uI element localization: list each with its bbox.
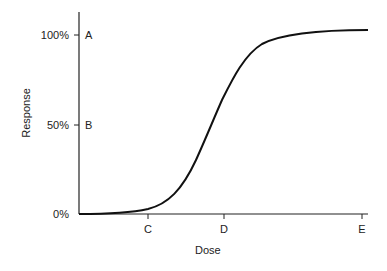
dose-response-chart: 100% A 50% B 0% C D E Dose Response (0, 0, 387, 271)
y-tick-letter: B (85, 119, 92, 131)
x-tick-c: C (144, 214, 152, 235)
x-tick-label: C (144, 223, 152, 235)
x-tick-e: E (358, 214, 365, 235)
y-tick-label: 100% (41, 29, 69, 41)
y-tick-0: 0% (53, 208, 69, 220)
y-tick-letter: A (85, 29, 93, 41)
x-tick-label: E (358, 223, 365, 235)
y-tick-label: 0% (53, 208, 69, 220)
y-tick-50: 50% B (47, 119, 92, 131)
x-tick-label: D (220, 223, 228, 235)
dose-response-curve (79, 30, 368, 214)
x-tick-d: D (220, 214, 228, 235)
x-axis-title: Dose (195, 244, 221, 256)
y-tick-100: 100% A (41, 29, 93, 41)
y-axis-title: Response (20, 88, 32, 138)
y-tick-label: 50% (47, 119, 69, 131)
